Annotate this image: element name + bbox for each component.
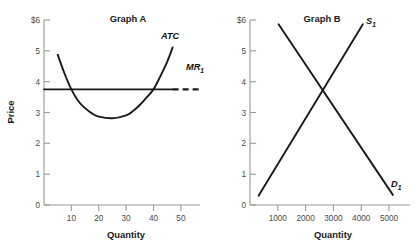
graph-b: $6 5 4 3 2 1 0 1000 2000 3000 4000 5000 … bbox=[237, 13, 410, 240]
graph-b-supply-label: S1 bbox=[366, 16, 376, 28]
graph-a-ytick-2: 2 bbox=[35, 139, 40, 148]
graph-a-xtick-40: 40 bbox=[149, 214, 159, 223]
graph-a-ytick-6: $6 bbox=[31, 16, 41, 25]
graph-b-x-ticks bbox=[278, 205, 389, 211]
graph-a-atc-curve bbox=[58, 47, 173, 118]
graph-a-y-axis-title: Price bbox=[5, 101, 16, 124]
graph-a-y-ticks bbox=[44, 20, 50, 205]
graph-b-y-ticks bbox=[250, 20, 256, 205]
graph-b-ytick-0: 0 bbox=[241, 201, 246, 210]
graph-b-ytick-2: 2 bbox=[241, 139, 246, 148]
graph-b-demand-label: D1 bbox=[391, 179, 402, 191]
graph-b-xtick-5000: 5000 bbox=[380, 214, 399, 223]
graph-b-title: Graph B bbox=[304, 13, 341, 24]
graph-b-x-axis-title: Quantity bbox=[314, 229, 353, 240]
graph-a-xtick-50: 50 bbox=[176, 214, 186, 223]
graph-b-ytick-6: $6 bbox=[237, 16, 247, 25]
graph-a-ytick-5: 5 bbox=[35, 47, 40, 56]
graph-b-ytick-1: 1 bbox=[241, 170, 246, 179]
graph-a-xtick-30: 30 bbox=[122, 214, 132, 223]
graph-a-x-axis-title: Quantity bbox=[107, 229, 146, 240]
graph-a-ytick-4: 4 bbox=[35, 78, 40, 87]
graph-a-ytick-1: 1 bbox=[35, 170, 40, 179]
graph-a-atc-label: ATC bbox=[160, 31, 180, 41]
graph-a-xtick-10: 10 bbox=[67, 214, 77, 223]
graph-b-demand-curve bbox=[279, 24, 393, 195]
graph-b-xtick-4000: 4000 bbox=[352, 214, 371, 223]
economics-figure: $6 5 4 3 2 1 0 10 20 30 40 50 Quantity P… bbox=[0, 0, 415, 248]
graph-a-ytick-0: 0 bbox=[35, 201, 40, 210]
graph-a-mr-label: MR1 bbox=[186, 62, 204, 74]
graph-a-title: Graph A bbox=[110, 13, 147, 24]
graph-b-xtick-1000: 1000 bbox=[269, 214, 288, 223]
graph-a-x-ticks bbox=[71, 205, 180, 211]
graph-b-ytick-4: 4 bbox=[241, 78, 246, 87]
graph-a: $6 5 4 3 2 1 0 10 20 30 40 50 Quantity P… bbox=[5, 13, 204, 240]
graph-b-xtick-3000: 3000 bbox=[324, 214, 343, 223]
graph-b-ytick-5: 5 bbox=[241, 47, 246, 56]
graph-b-xtick-2000: 2000 bbox=[296, 214, 315, 223]
graph-a-xtick-20: 20 bbox=[94, 214, 104, 223]
graph-b-supply-curve bbox=[259, 24, 363, 195]
graph-b-ytick-3: 3 bbox=[241, 109, 246, 118]
graph-a-ytick-3: 3 bbox=[35, 109, 40, 118]
